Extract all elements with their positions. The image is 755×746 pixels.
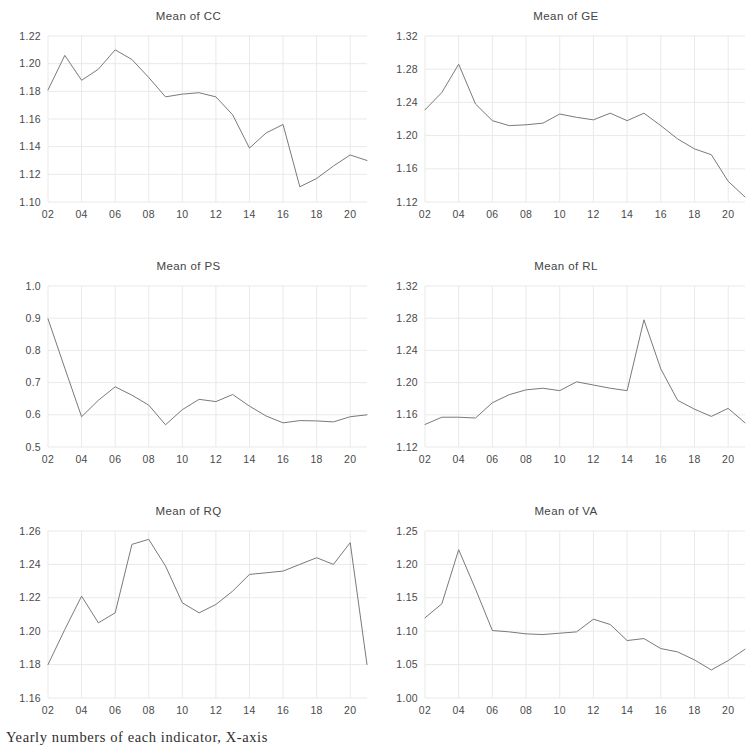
y-axis-tick-label: 1.00 <box>396 692 418 704</box>
x-axis-tick-label: 18 <box>688 208 700 220</box>
y-axis-tick-label: 1.28 <box>396 312 418 324</box>
y-axis-tick-label: 1.22 <box>19 591 41 603</box>
plot-area-rl: 1.121.161.201.241.281.320204060810121416… <box>377 250 755 495</box>
x-axis-tick-label: 08 <box>520 453 532 465</box>
x-axis-tick-label: 04 <box>453 453 465 465</box>
plot-area-rq: 1.161.181.201.221.241.260204060810121416… <box>0 495 377 746</box>
y-axis-tick-label: 1.0 <box>26 280 42 292</box>
y-axis-tick-label: 1.16 <box>396 408 418 420</box>
data-series-line <box>425 320 745 425</box>
x-axis-tick-label: 20 <box>344 453 356 465</box>
y-axis-tick-label: 1.20 <box>396 129 418 141</box>
y-axis-tick-label: 1.20 <box>396 558 418 570</box>
y-axis-tick-label: 1.28 <box>396 63 418 75</box>
y-axis-tick-label: 1.32 <box>396 280 418 292</box>
plot-area-cc: 1.101.121.141.161.181.201.22020406081012… <box>0 0 377 250</box>
x-axis-tick-label: 16 <box>277 208 289 220</box>
x-axis-tick-label: 12 <box>587 208 599 220</box>
panel-va: Mean of VA 1.001.051.101.151.201.2502040… <box>377 495 755 746</box>
x-axis-tick-label: 14 <box>621 208 633 220</box>
x-axis-tick-label: 08 <box>143 453 155 465</box>
panel-cc: Mean of CC 1.101.121.141.161.181.201.220… <box>0 0 377 250</box>
x-axis-tick-label: 08 <box>520 704 532 716</box>
x-axis-tick-label: 10 <box>554 208 566 220</box>
y-axis-tick-label: 0.5 <box>26 441 42 453</box>
x-axis-tick-label: 10 <box>176 704 188 716</box>
x-axis-tick-label: 20 <box>722 704 734 716</box>
x-axis-tick-label: 18 <box>310 208 322 220</box>
y-axis-tick-label: 1.20 <box>19 625 41 637</box>
panel-ge: Mean of GE 1.121.161.201.241.281.3202040… <box>377 0 755 250</box>
x-axis-tick-label: 18 <box>310 704 322 716</box>
x-axis-tick-label: 02 <box>419 453 431 465</box>
y-axis-tick-label: 1.12 <box>396 196 418 208</box>
x-axis-tick-label: 04 <box>75 453 87 465</box>
y-axis-tick-label: 1.12 <box>396 441 418 453</box>
x-axis-tick-label: 06 <box>486 704 498 716</box>
y-axis-tick-label: 1.24 <box>19 558 41 570</box>
y-axis-tick-label: 1.32 <box>396 30 418 42</box>
x-axis-tick-label: 10 <box>176 208 188 220</box>
x-axis-tick-label: 08 <box>520 208 532 220</box>
x-axis-tick-label: 14 <box>621 704 633 716</box>
chart-svg-ps: 0.50.60.70.80.91.002040608101214161820 <box>0 250 377 495</box>
x-axis-tick-label: 08 <box>143 704 155 716</box>
x-axis-tick-label: 08 <box>143 208 155 220</box>
y-axis-tick-label: 1.16 <box>19 692 41 704</box>
y-axis-tick-label: 1.10 <box>19 196 41 208</box>
y-axis-tick-label: 0.8 <box>26 344 42 356</box>
x-axis-tick-label: 10 <box>554 704 566 716</box>
x-axis-tick-label: 16 <box>277 704 289 716</box>
chart-svg-ge: 1.121.161.201.241.281.320204060810121416… <box>377 0 755 250</box>
y-axis-tick-label: 0.7 <box>26 376 42 388</box>
y-axis-tick-label: 0.9 <box>26 312 42 324</box>
panel-ps: Mean of PS 0.50.60.70.80.91.002040608101… <box>0 250 377 495</box>
x-axis-tick-label: 06 <box>109 208 121 220</box>
plot-area-ps: 0.50.60.70.80.91.002040608101214161820 <box>0 250 377 495</box>
x-axis-tick-label: 18 <box>688 704 700 716</box>
x-axis-tick-label: 10 <box>554 453 566 465</box>
x-axis-tick-label: 04 <box>75 704 87 716</box>
x-axis-tick-label: 02 <box>42 208 54 220</box>
chart-grid: Mean of CC 1.101.121.141.161.181.201.220… <box>0 0 755 746</box>
y-axis-tick-label: 1.20 <box>19 57 41 69</box>
x-axis-tick-label: 02 <box>419 704 431 716</box>
y-axis-tick-label: 1.12 <box>19 168 41 180</box>
x-axis-tick-label: 12 <box>210 453 222 465</box>
y-axis-tick-label: 1.15 <box>396 591 418 603</box>
chart-svg-rl: 1.121.161.201.241.281.320204060810121416… <box>377 250 755 495</box>
x-axis-tick-label: 16 <box>277 453 289 465</box>
x-axis-tick-label: 06 <box>486 453 498 465</box>
y-axis-tick-label: 1.14 <box>19 140 41 152</box>
x-axis-tick-label: 14 <box>621 453 633 465</box>
chart-svg-rq: 1.161.181.201.221.241.260204060810121416… <box>0 495 377 746</box>
y-axis-tick-label: 1.20 <box>396 376 418 388</box>
y-axis-tick-label: 1.18 <box>19 85 41 97</box>
y-axis-tick-label: 1.25 <box>396 525 418 537</box>
x-axis-tick-label: 16 <box>655 704 667 716</box>
y-axis-tick-label: 1.10 <box>396 625 418 637</box>
data-series-line <box>48 50 367 187</box>
plot-area-va: 1.001.051.101.151.201.250204060810121416… <box>377 495 755 746</box>
y-axis-tick-label: 1.24 <box>396 96 418 108</box>
y-axis-tick-label: 1.16 <box>396 162 418 174</box>
data-series-line <box>48 539 367 664</box>
x-axis-tick-label: 06 <box>109 453 121 465</box>
x-axis-tick-label: 20 <box>344 208 356 220</box>
chart-svg-cc: 1.101.121.141.161.181.201.22020406081012… <box>0 0 377 250</box>
x-axis-tick-label: 14 <box>243 453 255 465</box>
figure-caption: Yearly numbers of each indicator, X-axis <box>6 729 746 746</box>
panel-rq: Mean of RQ 1.161.181.201.221.241.2602040… <box>0 495 377 746</box>
y-axis-tick-label: 1.16 <box>19 113 41 125</box>
x-axis-tick-label: 16 <box>655 453 667 465</box>
x-axis-tick-label: 16 <box>655 208 667 220</box>
x-axis-tick-label: 14 <box>243 704 255 716</box>
data-series-line <box>425 550 745 670</box>
x-axis-tick-label: 12 <box>587 453 599 465</box>
y-axis-tick-label: 1.22 <box>19 30 41 42</box>
data-series-line <box>425 64 745 197</box>
y-axis-tick-label: 1.18 <box>19 658 41 670</box>
y-axis-tick-label: 0.6 <box>26 408 42 420</box>
panel-rl: Mean of RL 1.121.161.201.241.281.3202040… <box>377 250 755 495</box>
data-series-line <box>48 319 367 425</box>
